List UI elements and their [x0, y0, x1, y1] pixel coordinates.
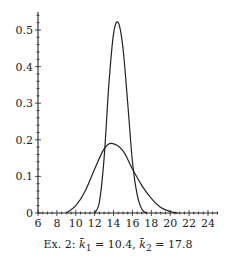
y-tick-label: 0.3 [16, 97, 34, 110]
x-tick-label: 8 [53, 217, 60, 230]
k1-value: 10.4 [108, 238, 133, 251]
y-tick-label: 0.1 [16, 170, 34, 183]
x-tick-label: 16 [125, 217, 139, 230]
y-tick-label: 0.4 [16, 61, 34, 74]
narrow-density-curve [95, 22, 147, 213]
y-tick-label: 0.5 [16, 24, 34, 37]
x-tick-label: 12 [88, 217, 102, 230]
axes: 68101214161820222400.10.20.30.40.5 [16, 12, 219, 230]
x-tick-label: 18 [144, 217, 158, 230]
broad-density-curve [66, 143, 177, 213]
caption-prefix: Ex. 2: [44, 238, 79, 251]
x-tick-label: 22 [182, 217, 196, 230]
x-tick-label: 24 [201, 217, 215, 230]
density-chart: 68101214161820222400.10.20.30.40.5 [0, 0, 236, 236]
chart-caption: Ex. 2: k̄1 = 10.4, k̄2 = 17.8 [0, 238, 236, 253]
x-tick-label: 14 [107, 217, 121, 230]
x-tick-label: 6 [35, 217, 42, 230]
y-tick-label: 0 [26, 207, 33, 220]
k2-value: 17.8 [168, 238, 193, 251]
x-tick-label: 20 [163, 217, 177, 230]
density-curves [66, 22, 177, 213]
x-tick-label: 10 [69, 217, 83, 230]
y-tick-label: 0.2 [16, 134, 34, 147]
